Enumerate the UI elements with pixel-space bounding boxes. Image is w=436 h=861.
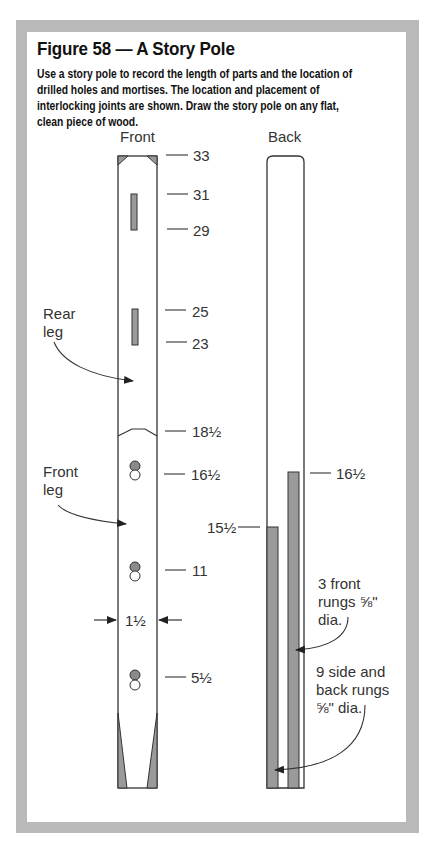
mark-5-half: 5½ — [191, 669, 212, 686]
back-pole — [267, 156, 304, 788]
mark-23: 23 — [192, 335, 209, 352]
mortise-upper — [131, 194, 137, 230]
rear-leg-label-2: leg — [43, 323, 63, 340]
back-rung-bar-left — [267, 527, 278, 788]
mark-11: 11 — [192, 562, 208, 579]
mark-18-half: 18½ — [192, 423, 222, 440]
front-tick-marks — [164, 155, 188, 677]
side-rungs-label-2: back rungs — [316, 681, 389, 698]
front-leg-arrow — [58, 505, 126, 524]
rear-leg-label-1: Rear — [43, 305, 76, 322]
front-pole — [118, 156, 157, 788]
front-rungs-label-2: rungs ⅝" — [318, 593, 378, 610]
back-mark-16-half: 16½ — [336, 465, 366, 482]
front-rungs-label-3: dia. — [318, 611, 342, 628]
front-leg-label-1: Front — [43, 463, 79, 480]
mark-16-half: 16½ — [191, 466, 221, 483]
mortise-lower — [132, 309, 138, 345]
back-rung-bar-right — [288, 472, 299, 788]
front-rungs-label-1: 3 front — [318, 575, 361, 592]
back-heading: Back — [268, 128, 302, 145]
mark-29: 29 — [193, 222, 210, 239]
mark-31: 31 — [193, 186, 210, 203]
side-rungs-label-3: ⅝" dia. — [316, 699, 362, 716]
mark-25: 25 — [192, 303, 209, 320]
front-heading: Front — [120, 128, 156, 145]
front-leg-label-2: leg — [43, 481, 63, 498]
story-pole-diagram: Front Back — [0, 0, 436, 861]
back-mark-15-half: 15½ — [207, 519, 237, 536]
mark-33: 33 — [193, 147, 210, 164]
width-label: 1½ — [125, 612, 146, 629]
side-rungs-label-1: 9 side and — [316, 663, 385, 680]
